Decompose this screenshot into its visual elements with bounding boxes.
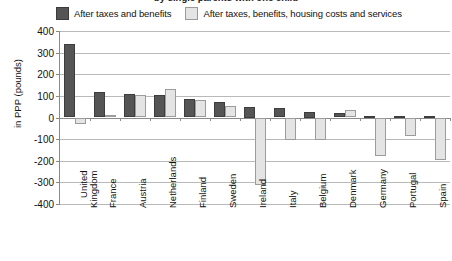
- chart-screenshot: by single parents with one child After t…: [0, 0, 452, 261]
- y-axis-tick: [56, 182, 60, 183]
- y-axis-title: in PPP (pounds): [12, 44, 23, 144]
- gridline: [60, 74, 450, 75]
- bar: [435, 118, 446, 160]
- bar: [315, 118, 326, 141]
- x-axis-tick: [90, 118, 91, 121]
- gridline: [60, 53, 450, 54]
- bar: [195, 100, 206, 117]
- y-axis-tick: [56, 204, 60, 205]
- x-axis-tick: [240, 118, 241, 121]
- x-axis-tick: [420, 118, 421, 121]
- bar: [285, 118, 296, 141]
- bar: [244, 107, 255, 118]
- chart-legend: After taxes and benefits After taxes, be…: [56, 6, 402, 21]
- bar: [105, 115, 116, 118]
- bar: [94, 92, 105, 118]
- legend-label-light: After taxes, benefits, housing costs and…: [203, 8, 401, 19]
- legend-swatch-light-icon: [185, 7, 198, 20]
- x-axis-label: Sweden: [228, 174, 238, 208]
- legend-swatch-dark-icon: [56, 7, 69, 20]
- gridline: [60, 31, 450, 32]
- x-axis-tick: [180, 118, 181, 121]
- legend-item-after-taxes-benefits-housing: After taxes, benefits, housing costs and…: [185, 7, 401, 20]
- x-axis-label: France: [108, 178, 118, 208]
- x-axis-tick: [270, 118, 271, 121]
- y-axis-tick-label: 0: [48, 112, 54, 123]
- bar: [394, 116, 405, 118]
- x-axis-tick: [210, 118, 211, 121]
- legend-label-dark: After taxes and benefits: [74, 8, 171, 19]
- y-axis-tick: [56, 118, 60, 119]
- bar: [405, 118, 416, 136]
- y-axis-tick: [56, 53, 60, 54]
- bar: [375, 118, 386, 157]
- y-axis-tick: [56, 96, 60, 97]
- bar: [124, 94, 135, 118]
- y-axis-tick: [56, 31, 60, 32]
- bar: [345, 110, 356, 118]
- bar: [304, 112, 315, 117]
- bar: [424, 116, 435, 118]
- gridline: [60, 96, 450, 97]
- bar: [135, 95, 146, 118]
- x-axis-label: Denmark: [348, 169, 358, 208]
- x-axis-label: Austria: [138, 178, 148, 208]
- y-axis-tick-label: -200: [34, 155, 54, 166]
- x-axis-tick: [300, 118, 301, 121]
- legend-item-after-taxes-and-benefits: After taxes and benefits: [56, 7, 171, 20]
- gridline: [60, 204, 450, 205]
- x-axis-label: United Kingdom: [79, 171, 99, 209]
- x-axis-label: Belgium: [318, 174, 328, 208]
- bar: [214, 102, 225, 117]
- bar: [165, 89, 176, 117]
- x-axis-tick: [150, 118, 151, 121]
- x-axis-label: Finland: [198, 177, 208, 208]
- y-axis-tick-label: -400: [34, 199, 54, 210]
- x-axis-tick: [360, 118, 361, 121]
- chart-title: by single parents with one child: [0, 0, 452, 3]
- x-axis-label: Spain: [438, 184, 448, 208]
- bar: [184, 99, 195, 117]
- bar: [334, 113, 345, 117]
- bar: [274, 108, 285, 118]
- bar: [154, 95, 165, 118]
- x-axis-tick: [120, 118, 121, 121]
- bar: [364, 116, 375, 118]
- y-axis-tick-label: 200: [37, 69, 54, 80]
- x-axis-label: Italy: [288, 191, 298, 208]
- x-axis-label: Portugal: [408, 173, 418, 208]
- x-axis-tick: [330, 118, 331, 121]
- y-axis-tick: [56, 74, 60, 75]
- x-axis-label: Netherlands: [168, 157, 178, 208]
- y-axis-tick-label: -100: [34, 134, 54, 145]
- chart-title-clipped: by single parents with one child: [0, 0, 452, 5]
- bar: [225, 106, 236, 118]
- x-axis-tick: [390, 118, 391, 121]
- x-axis-label: Ireland: [258, 179, 268, 208]
- bar: [75, 118, 86, 125]
- y-axis-tick-label: 300: [37, 47, 54, 58]
- x-axis-tick: [450, 118, 451, 121]
- x-axis-label: Germany: [378, 169, 388, 208]
- y-axis-tick-label: 400: [37, 26, 54, 37]
- y-axis-tick-label: 100: [37, 90, 54, 101]
- y-axis-tick-label: -300: [34, 177, 54, 188]
- y-axis-tick: [56, 161, 60, 162]
- y-axis-tick: [56, 139, 60, 140]
- bar: [64, 44, 75, 118]
- bar: [255, 118, 266, 185]
